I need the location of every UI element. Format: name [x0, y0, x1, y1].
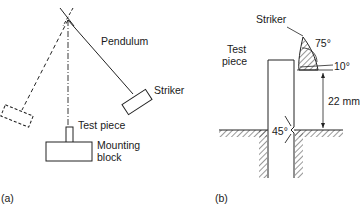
label-test-piece-b-2: piece — [222, 56, 247, 67]
label-test-piece-b-1: Test — [227, 44, 246, 55]
label-mounting-block-2: block — [97, 152, 122, 163]
mounting-block — [46, 142, 92, 161]
label-angle-10: 10° — [334, 61, 350, 72]
panel-b-label: (b) — [215, 193, 228, 204]
label-striker-a: Striker — [154, 85, 184, 96]
label-22mm: 22 mm — [328, 96, 360, 107]
panel-a-label: (a) — [1, 193, 14, 204]
label-angle-75: 75° — [315, 38, 331, 49]
label-pendulum: Pendulum — [101, 36, 148, 47]
label-striker-b: Striker — [256, 14, 286, 25]
impact-test-diagram — [0, 0, 360, 210]
label-notch-45: 45° — [272, 126, 288, 137]
test-piece — [66, 127, 73, 143]
striker-start-position — [1, 105, 33, 127]
label-test-piece-a: Test piece — [78, 120, 125, 131]
test-piece-b — [268, 60, 294, 178]
label-mounting-block-1: Mounting — [97, 140, 140, 151]
striker-head — [122, 89, 152, 114]
